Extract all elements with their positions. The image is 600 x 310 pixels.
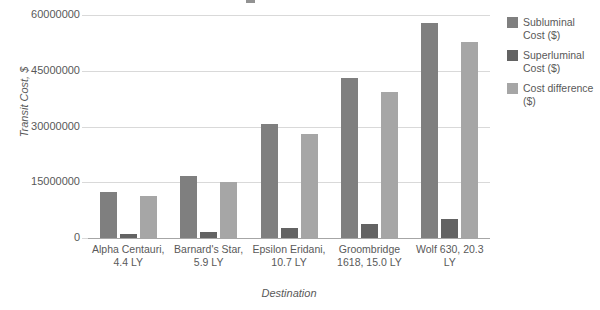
bar-groups <box>88 15 490 238</box>
axis-baseline <box>88 238 490 239</box>
x-axis-tick-label: Alpha Centauri, 4.4 LY <box>88 243 168 269</box>
bar[interactable] <box>200 232 217 238</box>
bar[interactable] <box>461 42 478 238</box>
legend-item[interactable]: Superluminal Cost ($) <box>507 49 599 75</box>
bar[interactable] <box>341 78 358 238</box>
legend-item[interactable]: Subluminal Cost ($) <box>507 16 599 42</box>
bar[interactable] <box>120 234 137 238</box>
x-axis-title: Destination <box>88 287 490 299</box>
cropped-title-remnant <box>246 0 255 3</box>
plot-area: 015000000300000004500000060000000 <box>88 15 490 238</box>
y-axis-tick-mark <box>82 238 88 239</box>
bar-chart: Transit Cost, $ 015000000300000004500000… <box>0 0 600 310</box>
bar[interactable] <box>301 134 318 238</box>
y-axis-tick-label-text: 60000000 <box>31 8 80 20</box>
bar-group <box>168 15 248 238</box>
bar[interactable] <box>100 192 117 238</box>
bar-group <box>329 15 409 238</box>
bar-group <box>249 15 329 238</box>
bar[interactable] <box>261 124 278 238</box>
bar[interactable] <box>421 23 438 238</box>
y-axis-tick-label-text: 0 <box>74 231 80 243</box>
y-axis-tick-label-text: 30000000 <box>31 120 80 132</box>
bar[interactable] <box>441 219 458 238</box>
legend-label: Subluminal Cost ($) <box>523 16 599 42</box>
y-axis-tick-label-text: 45000000 <box>31 64 80 76</box>
legend: Subluminal Cost ($)Superluminal Cost ($)… <box>507 16 599 115</box>
x-axis-tick-label: Groombridge 1618, 15.0 LY <box>329 243 409 269</box>
bar[interactable] <box>180 176 197 238</box>
y-axis-title: Transit Cost, $ <box>18 32 30 172</box>
y-axis-tick-label-text: 15000000 <box>31 175 80 187</box>
x-axis-tick-label: Epsilon Eridani, 10.7 LY <box>249 243 329 269</box>
bar[interactable] <box>281 228 298 238</box>
bar-group <box>410 15 490 238</box>
legend-swatch-icon <box>507 83 518 94</box>
bar-group <box>88 15 168 238</box>
x-axis-tick-labels: Alpha Centauri, 4.4 LYBarnard's Star, 5.… <box>88 243 490 269</box>
legend-label: Superluminal Cost ($) <box>523 49 599 75</box>
bar[interactable] <box>361 224 378 238</box>
x-axis-tick-label: Wolf 630, 20.3 LY <box>410 243 490 269</box>
bar[interactable] <box>140 196 157 238</box>
bar[interactable] <box>220 182 237 238</box>
legend-swatch-icon <box>507 17 518 28</box>
legend-label: Cost difference ($) <box>523 82 599 108</box>
x-axis-tick-label: Barnard's Star, 5.9 LY <box>168 243 248 269</box>
bar[interactable] <box>381 92 398 238</box>
legend-item[interactable]: Cost difference ($) <box>507 82 599 108</box>
legend-swatch-icon <box>507 50 518 61</box>
